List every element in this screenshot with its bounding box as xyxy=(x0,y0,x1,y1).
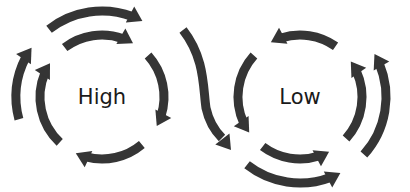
arrows-layer xyxy=(16,7,389,188)
high-outer-arrow-top xyxy=(49,11,132,29)
high-inner-arrow-bottom xyxy=(86,144,142,159)
high-inner-arrow-top xyxy=(65,35,123,47)
low-inner-arrow-top xyxy=(281,35,336,46)
high-outer-arrow-left xyxy=(16,57,26,119)
high-inner-arrow-left xyxy=(40,73,60,142)
high-low-cycle-diagram: High Low xyxy=(0,0,410,192)
high-inner-arrow-right xyxy=(148,56,164,116)
low-label: Low xyxy=(279,85,320,109)
connector-arrow-high-to-low xyxy=(183,30,222,138)
low-inner-arrow-bottom xyxy=(263,147,319,159)
low-inner-arrow-right xyxy=(346,71,362,139)
high-label: High xyxy=(78,85,126,109)
low-outer-arrow-bottom xyxy=(247,165,330,183)
low-outer-arrow-right xyxy=(364,64,386,155)
low-inner-arrow-left xyxy=(238,56,254,124)
